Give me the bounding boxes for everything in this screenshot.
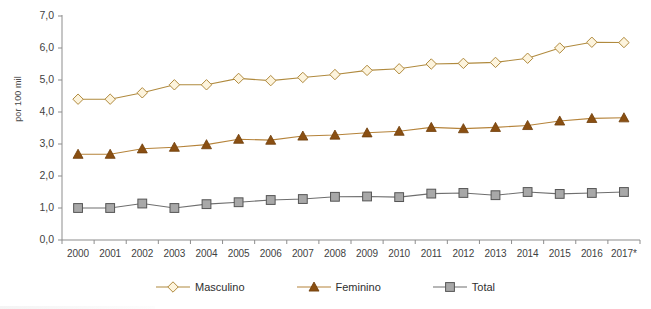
y-axis-tick-label: 1,0 [24, 201, 54, 213]
y-axis-tick-label: 5,0 [24, 73, 54, 85]
x-axis-tick-label: 2017* [607, 248, 641, 259]
y-axis-tick-label: 3,0 [24, 137, 54, 149]
legend-label: Feminino [336, 281, 381, 293]
x-axis-tick-label: 2005 [222, 248, 256, 259]
legend-item-total[interactable]: Total [433, 280, 495, 294]
legend-marker-diamond-icon [156, 280, 190, 294]
legend-label: Total [472, 281, 495, 293]
x-axis-tick-label: 2016 [575, 248, 609, 259]
y-axis-tick-label: 7,0 [24, 9, 54, 21]
y-axis-tick-label: 4,0 [24, 105, 54, 117]
x-axis-tick-label: 2013 [479, 248, 513, 259]
series-total [74, 188, 629, 213]
legend-item-masculino[interactable]: Masculino [156, 280, 245, 294]
y-axis-title: por 100 mil [13, 53, 23, 145]
y-axis-tick-label: 2,0 [24, 169, 54, 181]
series-feminino [73, 113, 629, 159]
x-axis-tick-label: 2008 [318, 248, 352, 259]
legend-label: Masculino [195, 281, 245, 293]
x-axis-tick-label: 2001 [93, 248, 127, 259]
x-axis-tick-label: 2004 [190, 248, 224, 259]
x-axis-tick-label: 2014 [511, 248, 545, 259]
x-axis-tick-label: 2000 [61, 248, 95, 259]
series-masculino [73, 37, 629, 104]
legend-item-feminino[interactable]: Feminino [297, 280, 381, 294]
x-axis-tick-label: 2003 [157, 248, 191, 259]
x-axis-tick-label: 2012 [446, 248, 480, 259]
x-axis-tick-label: 2006 [254, 248, 288, 259]
x-axis-tick-label: 2011 [414, 248, 448, 259]
y-axis-tick-label: 6,0 [24, 41, 54, 53]
chart-container: por 100 mil 0,01,02,03,04,05,06,07,0 200… [0, 0, 651, 309]
line-chart-plot [0, 0, 651, 309]
x-axis-tick-label: 2002 [125, 248, 159, 259]
x-axis-tick-label: 2007 [286, 248, 320, 259]
x-axis-tick-label: 2010 [382, 248, 416, 259]
legend-marker-square-icon [433, 280, 467, 294]
y-axis-tick-label: 0,0 [24, 233, 54, 245]
legend-marker-triangle-icon [297, 280, 331, 294]
x-axis-tick-label: 2009 [350, 248, 384, 259]
x-axis-tick-label: 2015 [543, 248, 577, 259]
chart-legend: MasculinoFemininoTotal [0, 280, 651, 294]
